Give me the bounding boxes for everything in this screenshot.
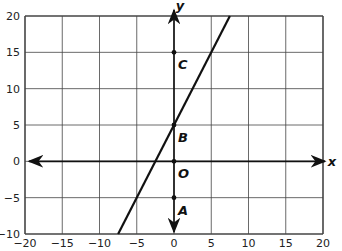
point-c (172, 50, 177, 55)
point-label-c: C (178, 57, 188, 72)
point-a (172, 195, 177, 200)
point-label-o: O (178, 166, 189, 181)
y-tick-label: 0 (13, 155, 20, 168)
x-tick-label: 0 (171, 237, 178, 250)
x-tick-label: 10 (242, 237, 256, 250)
coordinate-plane-chart: −20−15−10−505101520−10−505101520xyCBOA (0, 0, 342, 251)
x-tick-label: −5 (129, 237, 145, 250)
y-tick-label: 15 (6, 46, 20, 59)
y-tick-label: −10 (0, 228, 20, 241)
point-b (172, 123, 177, 128)
y-tick-label: 20 (6, 10, 20, 23)
x-tick-label: 20 (316, 237, 330, 250)
y-tick-label: 5 (13, 119, 20, 132)
x-axis-label: x (327, 154, 337, 169)
y-tick-label: −5 (4, 192, 20, 205)
x-tick-label: −15 (51, 237, 74, 250)
x-tick-label: −10 (88, 237, 111, 250)
point-o (172, 159, 177, 164)
x-tick-label: 15 (279, 237, 293, 250)
x-tick-label: 5 (208, 237, 215, 250)
y-tick-label: 10 (6, 83, 20, 96)
point-label-b: B (178, 130, 188, 145)
y-axis-label: y (176, 0, 185, 13)
point-label-a: A (177, 203, 188, 218)
